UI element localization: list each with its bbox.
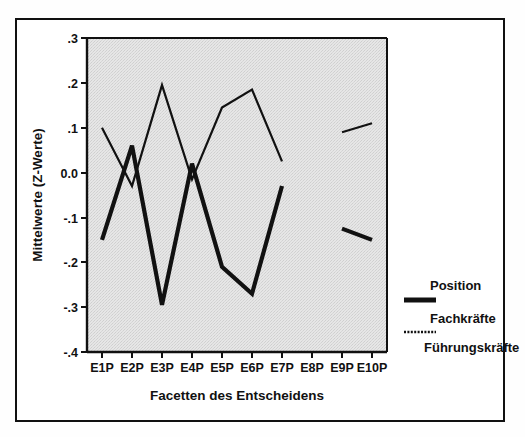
y-tick-label-3: 0.0 — [61, 167, 78, 181]
y-tick-label-2: .1 — [68, 122, 78, 136]
y-tick-label-6: -.3 — [63, 301, 78, 315]
legend-label-fachkraefte: Fachkräfte — [430, 311, 496, 326]
y-tick-label-7: -.4 — [63, 346, 78, 360]
y-tick-label-0: .3 — [68, 32, 78, 46]
x-tick-label-E9P: E9P — [330, 361, 354, 375]
x-tick-label-E10P: E10P — [357, 361, 388, 375]
chart-figure: .3 .2 .1 0.0 -.1 -.2 -.3 -.4 E1PE2PE3PE4… — [0, 0, 525, 437]
x-axis-tick-labels: E1PE2PE3PE4PE5PE6PE7PE8PE9PE10P — [90, 361, 387, 375]
x-tick-label-E2P: E2P — [120, 361, 144, 375]
plot-panel-background — [87, 38, 387, 352]
chart-legend: Position Fachkräfte Führungskräfte — [404, 278, 519, 355]
y-tick-label-1: .2 — [68, 77, 78, 91]
x-tick-label-E1P: E1P — [90, 361, 114, 375]
y-tick-label-4: -.1 — [63, 212, 78, 226]
y-axis-title: Mittelwerte (Z-Werte) — [30, 128, 45, 261]
x-tick-label-E4P: E4P — [180, 361, 204, 375]
legend-title: Position — [430, 278, 481, 293]
line-chart: .3 .2 .1 0.0 -.1 -.2 -.3 -.4 E1PE2PE3PE4… — [0, 0, 525, 437]
x-tick-label-E8P: E8P — [300, 361, 324, 375]
x-tick-label-E6P: E6P — [240, 361, 264, 375]
x-axis-title: Facetten des Entscheidens — [150, 388, 324, 403]
x-tick-label-E7P: E7P — [270, 361, 294, 375]
legend-label-fuehrungskraefte: Führungskräfte — [424, 340, 519, 355]
x-tick-label-E5P: E5P — [210, 361, 234, 375]
x-tick-label-E3P: E3P — [150, 361, 174, 375]
y-tick-label-5: -.2 — [63, 256, 78, 270]
